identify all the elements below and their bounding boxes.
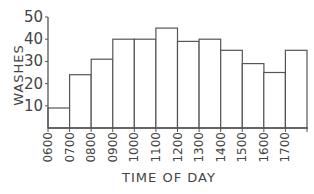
x-tick-label: 1400 — [214, 132, 228, 163]
bar-0700 — [70, 75, 92, 128]
bar-0900 — [113, 39, 135, 128]
y-tick-label: 50 — [24, 8, 43, 26]
bar-0600 — [48, 108, 70, 128]
y-tick-label: 40 — [24, 30, 43, 48]
y-tick-label: 20 — [24, 75, 43, 93]
x-tick-label: 1700 — [278, 132, 292, 163]
x-axis-title: TIME OF DAY — [121, 170, 216, 185]
x-tick-label: 1300 — [192, 132, 206, 163]
x-tick-label: 0800 — [84, 132, 98, 163]
histogram-chart: 1020304050 06000700080009001000110012001… — [0, 0, 314, 194]
bar-1300 — [199, 39, 221, 128]
y-axis-ticks: 1020304050 — [24, 8, 48, 115]
x-tick-label: 1100 — [149, 132, 163, 163]
bar-1600 — [264, 73, 286, 129]
bar-1000 — [134, 39, 156, 128]
bar-1100 — [156, 28, 178, 128]
x-axis-ticks: 0600070008000900100011001200130014001500… — [41, 128, 307, 163]
bar-1700 — [285, 50, 307, 128]
bar-1500 — [242, 64, 264, 128]
x-tick-label: 1500 — [235, 132, 249, 163]
bar-1400 — [221, 50, 243, 128]
y-tick-label: 30 — [24, 52, 43, 70]
x-tick-label: 0700 — [63, 132, 77, 163]
bar-0800 — [91, 59, 113, 128]
y-tick-label: 10 — [24, 97, 43, 115]
x-tick-label: 0900 — [106, 132, 120, 163]
bars — [48, 28, 307, 128]
bar-1200 — [178, 41, 200, 128]
x-tick-label: 1200 — [171, 132, 185, 163]
x-tick-label: 1600 — [257, 132, 271, 163]
y-axis-title: WASHES — [11, 44, 26, 106]
x-tick-label: 0600 — [41, 132, 55, 163]
x-tick-label: 1000 — [127, 132, 141, 163]
